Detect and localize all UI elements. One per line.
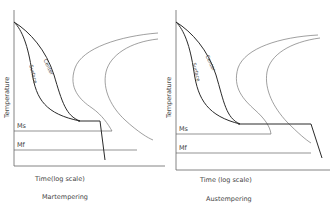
ms-label: Ms xyxy=(17,122,26,130)
mf-label: Mf xyxy=(17,141,25,149)
martempering-diagram xyxy=(14,10,165,166)
ttt-finish-curve xyxy=(105,39,158,140)
y-axis-label: Temperature xyxy=(165,77,173,118)
austempering-diagram xyxy=(176,10,330,170)
ms-label: Ms xyxy=(179,125,188,133)
diagram-caption: Austempering xyxy=(206,195,252,203)
mf-label: Mf xyxy=(179,144,187,152)
quench-hold-line xyxy=(78,121,105,160)
surface-cooling-curve xyxy=(176,22,240,124)
x-axis-label: Time (log scale) xyxy=(200,176,252,184)
y-axis-label: Temperature xyxy=(3,77,11,118)
ttt-start-curve xyxy=(73,33,158,131)
ttt-start-curve xyxy=(236,35,318,134)
x-axis-label: Time(log scale) xyxy=(35,175,85,183)
diagram-caption: Martempering xyxy=(42,193,88,201)
